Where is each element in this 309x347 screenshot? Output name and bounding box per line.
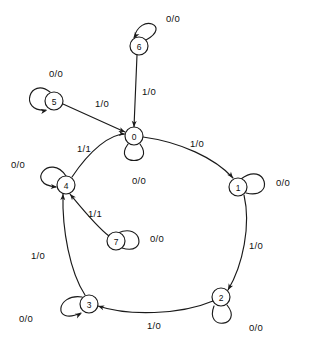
self-loop-label-5: 0/0 xyxy=(49,68,63,79)
self-loop-label-2: 0/0 xyxy=(249,322,263,333)
state-node-0[interactable]: 0 xyxy=(125,127,143,145)
transition-label-1-2: 1/0 xyxy=(249,240,263,251)
state-label-3: 3 xyxy=(87,300,92,310)
state-node-5[interactable]: 5 xyxy=(45,92,63,110)
self-loop-arc-3 xyxy=(61,297,82,316)
transition-arrow-2-3 xyxy=(98,301,213,313)
transition-label-4-0: 1/1 xyxy=(77,143,91,154)
state-label-5: 5 xyxy=(52,97,57,107)
fsm-canvas: 01234567 1/01/01/11/01/01/01/01/10/00/00… xyxy=(0,0,309,347)
transition-0-to-1 xyxy=(143,137,233,178)
transition-arrow-0-1 xyxy=(143,137,233,178)
self-loop-arc-2 xyxy=(212,305,231,323)
state-label-4: 4 xyxy=(64,181,69,191)
state-node-6[interactable]: 6 xyxy=(130,37,148,55)
state-node-7[interactable]: 7 xyxy=(107,232,125,250)
state-node-1[interactable]: 1 xyxy=(229,178,247,196)
transition-2-to-3 xyxy=(98,301,213,313)
state-label-7: 7 xyxy=(114,237,119,247)
self-loop-label-3: 0/0 xyxy=(19,313,33,324)
self-loop-label-7: 0/0 xyxy=(150,233,164,244)
self-loop-3 xyxy=(61,297,82,319)
state-label-0: 0 xyxy=(132,132,137,142)
transition-1-to-2 xyxy=(228,195,247,290)
transition-arrow-1-2 xyxy=(228,195,247,290)
self-loop-arc-0 xyxy=(124,144,143,161)
transition-label-0-1: 1/0 xyxy=(190,138,204,149)
transition-label-2-3: 1/0 xyxy=(147,320,161,331)
transition-label-7-4: 1/1 xyxy=(88,208,102,219)
transition-6-to-0 xyxy=(132,55,137,127)
self-loop-label-6: 0/0 xyxy=(166,13,180,24)
transition-label-5-0: 1/0 xyxy=(95,98,109,109)
transition-3-to-4 xyxy=(60,194,85,295)
transition-arrow-3-4 xyxy=(63,194,85,295)
edge-labels-layer: 1/01/01/11/01/01/01/01/10/00/00/00/00/00… xyxy=(11,13,290,333)
self-loop-label-0: 0/0 xyxy=(132,175,146,186)
transition-label-3-4: 1/0 xyxy=(31,250,45,261)
transition-arrow-6-0 xyxy=(134,55,137,127)
state-node-2[interactable]: 2 xyxy=(212,288,230,306)
self-loop-label-1: 0/0 xyxy=(276,177,290,188)
state-node-4[interactable]: 4 xyxy=(57,176,75,194)
transition-4-to-0 xyxy=(72,131,125,177)
state-label-1: 1 xyxy=(236,183,241,193)
state-label-2: 2 xyxy=(219,293,224,303)
state-label-6: 6 xyxy=(137,42,142,52)
self-loop-label-4: 0/0 xyxy=(11,159,25,170)
arrowhead-icon-loop-3 xyxy=(75,314,82,319)
transition-label-6-0: 1/0 xyxy=(142,86,156,97)
state-diagram-container: 01234567 1/01/01/11/01/01/01/01/10/00/00… xyxy=(0,0,309,347)
transition-arrow-4-0 xyxy=(72,134,125,177)
state-node-3[interactable]: 3 xyxy=(80,295,98,313)
